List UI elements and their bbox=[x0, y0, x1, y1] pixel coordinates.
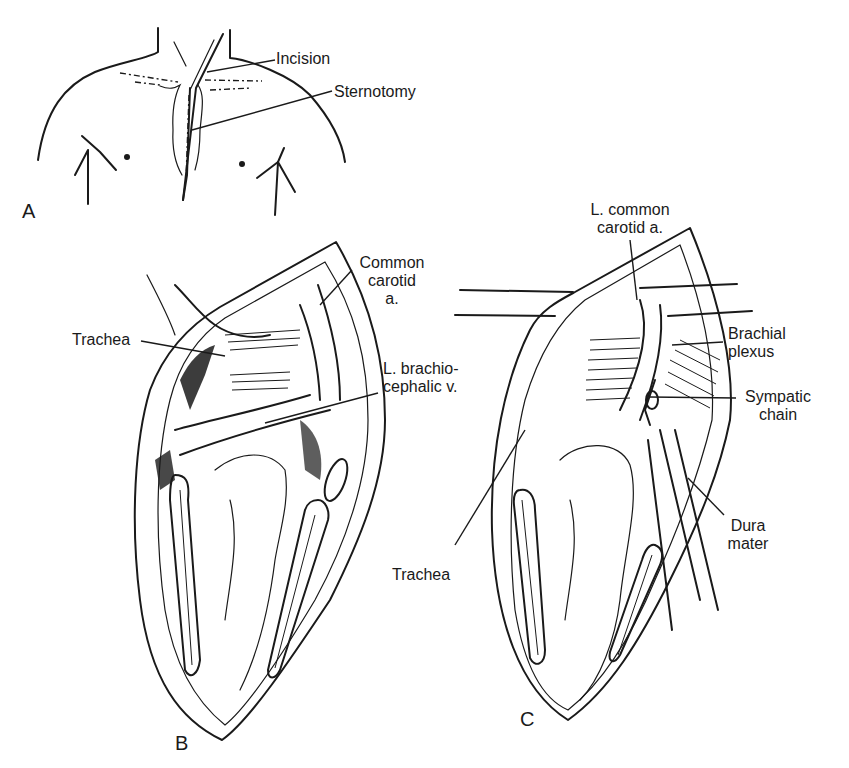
label-l-common-carotid: L. common carotid a. bbox=[580, 201, 680, 237]
label-sternotomy: Sternotomy bbox=[334, 83, 416, 101]
panel-letter-c: C bbox=[520, 708, 534, 731]
brachiocephalic-leader bbox=[265, 393, 378, 423]
sympatic-chain-leader bbox=[650, 397, 736, 398]
label-common-carotid: Common carotid a. bbox=[352, 254, 432, 308]
incision-leader bbox=[207, 60, 275, 72]
sternotomy-leader bbox=[192, 91, 332, 130]
brachial-plexus-leader bbox=[672, 342, 723, 345]
label-brachial-plexus: Brachial plexus bbox=[728, 325, 786, 361]
panel-c-drawing bbox=[455, 228, 752, 720]
panel-letter-a: A bbox=[22, 200, 35, 223]
label-incision: Incision bbox=[276, 50, 330, 68]
label-trachea-b: Trachea bbox=[72, 331, 130, 349]
trachea-c-leader bbox=[455, 430, 525, 545]
label-brachiocephalic-vein: L. brachio- cephalic v. bbox=[383, 360, 459, 396]
label-dura-mater: Dura mater bbox=[718, 517, 778, 553]
label-sympatic-chain: Sympatic chain bbox=[738, 388, 818, 424]
panel-letter-b: B bbox=[175, 732, 188, 755]
common-carotid-leader bbox=[320, 270, 352, 305]
panel-b-drawing bbox=[135, 242, 385, 740]
label-trachea-c: Trachea bbox=[392, 566, 450, 584]
